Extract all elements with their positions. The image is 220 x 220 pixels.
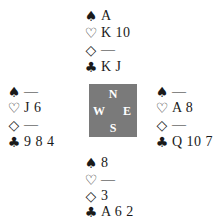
spade-icon: ♠ (84, 155, 98, 171)
compass-box: N W E S (89, 84, 137, 137)
spade-icon: ♠ (84, 8, 98, 24)
north-diamonds-cards: — (101, 42, 116, 58)
north-hearts-cards: K 10 (101, 25, 131, 41)
diamond-icon: ◇ (155, 117, 169, 133)
club-icon: ♣ (84, 204, 98, 220)
heart-icon: ♡ (84, 172, 98, 188)
diamond-icon: ◇ (84, 42, 98, 58)
heart-icon: ♡ (7, 100, 21, 116)
south-spades-cards: 8 (101, 155, 109, 171)
compass-north: N (107, 88, 119, 100)
compass-south: S (107, 122, 119, 134)
club-icon: ♣ (84, 59, 98, 75)
spade-icon: ♠ (7, 84, 21, 100)
south-diamonds-cards: 3 (101, 188, 109, 204)
heart-icon: ♡ (155, 100, 169, 116)
west-spades-cards: — (24, 84, 39, 100)
heart-icon: ♡ (84, 25, 98, 41)
east-spades-cards: — (172, 84, 187, 100)
north-clubs-cards: K J (101, 59, 122, 75)
west-clubs-cards: 9 8 4 (24, 134, 55, 150)
east-diamonds-cards: — (172, 117, 187, 133)
west-diamonds-cards: — (24, 117, 39, 133)
diamond-icon: ◇ (7, 117, 21, 133)
south-clubs-cards: A 6 2 (101, 204, 134, 220)
south-hearts-cards: — (101, 172, 116, 188)
east-clubs-cards: Q 10 7 (172, 134, 213, 150)
club-icon: ♣ (7, 134, 21, 150)
compass-west: W (93, 105, 105, 117)
north-spades-cards: A (101, 8, 112, 24)
diamond-icon: ◇ (84, 188, 98, 204)
compass-east: E (121, 105, 133, 117)
club-icon: ♣ (155, 134, 169, 150)
spade-icon: ♠ (155, 84, 169, 100)
west-hearts-cards: J 6 (24, 100, 41, 116)
east-hearts-cards: A 8 (172, 100, 193, 116)
